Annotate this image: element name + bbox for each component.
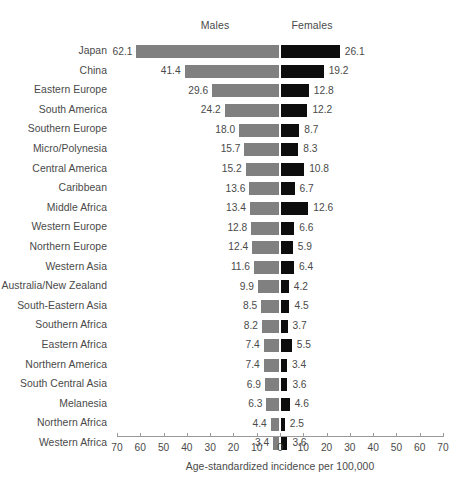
chart-row: Japan62.126.1 xyxy=(0,42,466,62)
chart-row: Western Europe12.86.6 xyxy=(0,218,466,238)
axis-tick-label: 60 xyxy=(135,442,146,453)
bar-females xyxy=(280,44,341,59)
bar-females xyxy=(280,142,299,157)
value-label-females: 5.9 xyxy=(298,241,312,253)
axis-tick-label: 40 xyxy=(367,442,378,453)
bar-males xyxy=(257,279,280,294)
value-label-males: 7.4 xyxy=(246,359,260,371)
category-label: Southern Africa xyxy=(35,319,107,331)
chart-row: Eastern Europe29.612.8 xyxy=(0,81,466,101)
category-label: Melanesia xyxy=(59,398,107,410)
value-label-males: 12.8 xyxy=(227,222,247,234)
category-label: Middle Africa xyxy=(47,202,107,214)
bar-females xyxy=(280,221,295,236)
chart-row: Southern Europe18.08.7 xyxy=(0,120,466,140)
bar-females xyxy=(280,123,300,138)
chart-row: Caribbean13.66.7 xyxy=(0,179,466,199)
bar-females xyxy=(280,201,309,216)
value-label-females: 3.7 xyxy=(293,320,307,332)
bar-males xyxy=(253,260,280,275)
chart-row: Central America15.210.8 xyxy=(0,160,466,180)
category-label: Caribbean xyxy=(59,182,107,194)
chart-row: Northern Africa4.42.5 xyxy=(0,414,466,434)
bar-females xyxy=(280,260,295,275)
value-label-males: 4.4 xyxy=(253,418,267,430)
bar-males xyxy=(260,299,280,314)
value-label-females: 12.6 xyxy=(313,202,333,214)
value-label-males: 29.6 xyxy=(188,85,208,97)
axis-tick-label: 0 xyxy=(277,442,283,453)
bar-females xyxy=(280,83,310,98)
axis-tick-label: 30 xyxy=(204,442,215,453)
axis-tick xyxy=(420,433,421,437)
chart-row: Micro/Polynesia15.78.3 xyxy=(0,140,466,160)
axis-tick-label: 20 xyxy=(228,442,239,453)
axis-tick-label: 50 xyxy=(391,442,402,453)
axis-tick-label: 40 xyxy=(181,442,192,453)
value-label-males: 13.6 xyxy=(226,183,246,195)
category-label: China xyxy=(80,65,107,77)
axis-title: Age-standardized incidence per 100,000 xyxy=(186,461,375,472)
axis-tick xyxy=(327,433,328,437)
bar-females xyxy=(280,299,290,314)
value-label-males: 6.9 xyxy=(247,379,261,391)
axis-tick xyxy=(140,433,141,437)
bar-males xyxy=(243,142,280,157)
bar-males xyxy=(224,103,280,118)
value-label-males: 24.2 xyxy=(201,104,221,116)
value-label-males: 62.1 xyxy=(113,46,133,58)
diverging-bar-chart: Males Females Japan62.126.1China41.419.2… xyxy=(0,0,466,490)
axis-tick xyxy=(210,433,211,437)
category-label: Eastern Europe xyxy=(34,84,107,96)
bar-females xyxy=(280,358,288,373)
axis-tick-label: 20 xyxy=(321,442,332,453)
x-axis: 70605040302010010203040506070 xyxy=(0,436,466,437)
bar-females xyxy=(280,103,308,118)
bar-females xyxy=(280,181,296,196)
category-label: Northern Europe xyxy=(29,241,107,253)
category-label: Australia/New Zealand xyxy=(1,280,107,292)
chart-rows: Japan62.126.1China41.419.2Eastern Europe… xyxy=(0,42,466,453)
axis-tick-label: 10 xyxy=(251,442,262,453)
bar-males xyxy=(238,123,280,138)
bar-females xyxy=(280,417,286,432)
value-label-females: 6.7 xyxy=(300,183,314,195)
axis-tick xyxy=(117,433,118,437)
bar-females xyxy=(280,397,291,412)
axis-tick xyxy=(303,433,304,437)
bar-males xyxy=(265,397,280,412)
category-label: Western Africa xyxy=(39,437,107,449)
bar-males xyxy=(249,201,280,216)
bar-males xyxy=(184,64,280,79)
bar-females xyxy=(280,338,293,353)
value-label-females: 12.8 xyxy=(314,85,334,97)
chart-row: Middle Africa13.412.6 xyxy=(0,199,466,219)
bar-males xyxy=(248,181,280,196)
value-label-males: 9.9 xyxy=(240,281,254,293)
bar-males xyxy=(250,221,280,236)
bar-females xyxy=(280,377,288,392)
value-label-females: 3.4 xyxy=(292,359,306,371)
chart-row: Eastern Africa7.45.5 xyxy=(0,336,466,356)
axis-tick xyxy=(350,433,351,437)
bar-males xyxy=(261,319,280,334)
axis-tick-label: 50 xyxy=(158,442,169,453)
value-label-males: 41.4 xyxy=(161,65,181,77)
category-label: South-Eastern Asia xyxy=(17,300,107,312)
axis-tick xyxy=(396,433,397,437)
chart-row: South-Eastern Asia8.54.5 xyxy=(0,297,466,317)
value-label-males: 7.4 xyxy=(246,339,260,351)
bar-males xyxy=(245,162,280,177)
bar-females xyxy=(280,319,289,334)
value-label-females: 3.6 xyxy=(292,379,306,391)
axis-tick xyxy=(373,433,374,437)
chart-row: Australia/New Zealand9.94.2 xyxy=(0,277,466,297)
category-label: Northern Africa xyxy=(37,417,107,429)
value-label-males: 8.2 xyxy=(244,320,258,332)
category-label: Eastern Africa xyxy=(42,339,107,351)
bar-females xyxy=(280,279,290,294)
axis-tick-label: 70 xyxy=(111,442,122,453)
series-header: Males Females xyxy=(0,19,466,35)
chart-row: China41.419.2 xyxy=(0,62,466,82)
axis-tick xyxy=(233,433,234,437)
